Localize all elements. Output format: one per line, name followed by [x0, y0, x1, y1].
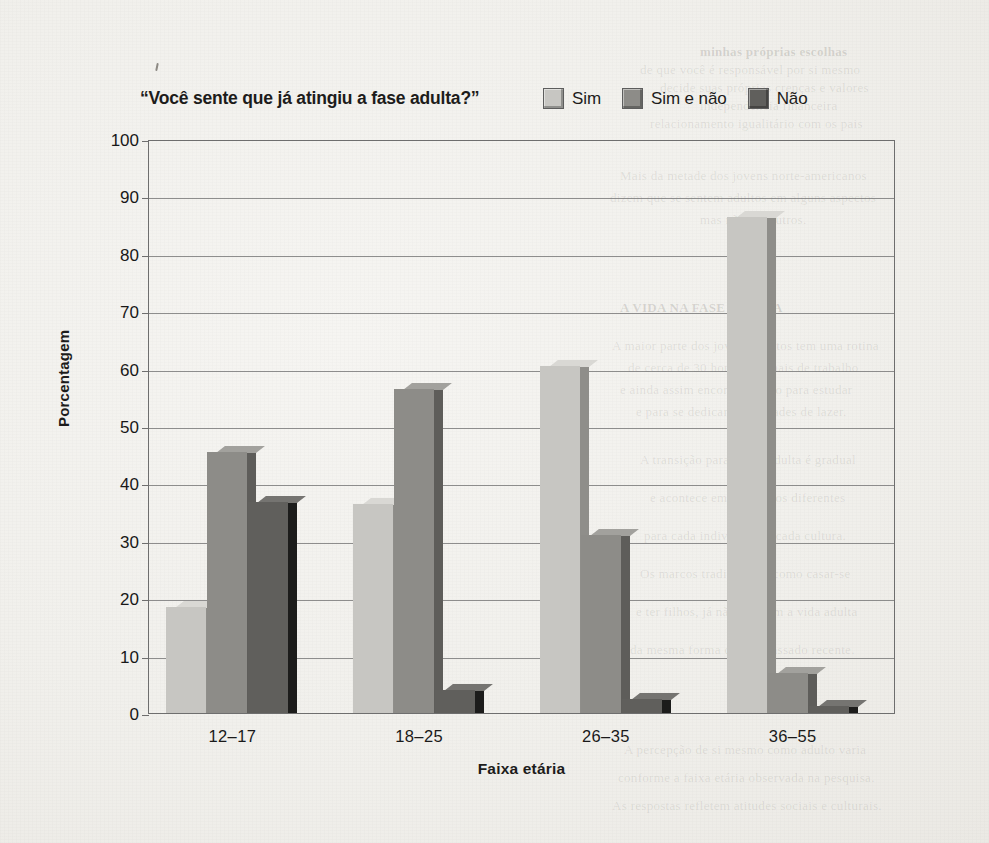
bar-front-face [435, 690, 475, 713]
bar-front-face [394, 389, 434, 713]
y-tick-mark [142, 141, 149, 142]
y-tick-mark [142, 371, 149, 372]
chart-legend: SimSim e nãoNão [543, 88, 822, 109]
bar[interactable] [394, 389, 434, 713]
plot-area: 0102030405060708090100 12–1718–2526–3536… [148, 140, 895, 714]
y-tick-mark [142, 256, 149, 257]
y-tick-mark [142, 658, 149, 659]
bar[interactable] [581, 535, 621, 713]
bar[interactable] [768, 673, 808, 713]
bar-front-face [166, 607, 206, 713]
legend-label: Não [777, 89, 808, 109]
legend-label: Sim [572, 89, 601, 109]
y-tick-label: 30 [120, 533, 139, 553]
bar-group: 18–25 [353, 141, 485, 713]
y-tick-mark [142, 198, 149, 199]
bar-front-face [248, 502, 288, 713]
bar[interactable] [809, 706, 849, 713]
chart-title: “Você sente que já atingiu a fase adulta… [140, 88, 479, 109]
legend-swatch-icon [622, 88, 643, 109]
bar-group: 36–55 [727, 141, 859, 713]
y-tick-label: 80 [120, 246, 139, 266]
bar-front-face [809, 706, 849, 713]
bar-front-face [581, 535, 621, 713]
bar-front-face [207, 452, 247, 713]
legend-swatch-icon [543, 88, 564, 109]
legend-swatch-icon [748, 88, 769, 109]
x-tick-label: 36–55 [769, 727, 817, 746]
y-tick-label: 10 [120, 648, 139, 668]
y-tick-label: 0 [130, 705, 139, 725]
bar-group: 12–17 [166, 141, 298, 713]
y-tick-label: 60 [120, 361, 139, 381]
y-tick-label: 50 [120, 418, 139, 438]
x-tick-label: 12–17 [208, 727, 256, 746]
bar[interactable] [248, 502, 288, 713]
legend-item-sim-e-não[interactable]: Sim e não [622, 88, 727, 109]
bar[interactable] [166, 607, 206, 713]
y-tick-label: 90 [120, 188, 139, 208]
legend-label: Sim e não [651, 89, 727, 109]
bar-side-face [288, 502, 297, 713]
y-tick-label: 40 [120, 475, 139, 495]
y-tick-mark [142, 543, 149, 544]
bar-side-face [662, 699, 671, 713]
bar[interactable] [622, 699, 662, 713]
legend-item-não[interactable]: Não [748, 88, 808, 109]
x-tick-label: 18–25 [395, 727, 443, 746]
bar-front-face [768, 673, 808, 713]
bar[interactable] [353, 504, 393, 714]
bar-side-face [767, 217, 776, 714]
bar-front-face [622, 699, 662, 713]
y-tick-mark [142, 428, 149, 429]
y-tick-label: 100 [111, 131, 139, 151]
y-tick-mark [142, 715, 149, 716]
bar-side-face [434, 389, 443, 713]
bar[interactable] [727, 217, 767, 714]
y-tick-mark [142, 313, 149, 314]
y-tick-label: 70 [120, 303, 139, 323]
bar-group: 26–35 [540, 141, 672, 713]
bar[interactable] [207, 452, 247, 713]
bar[interactable] [540, 366, 580, 713]
bar-front-face [353, 504, 393, 714]
bar-front-face [727, 217, 767, 714]
y-tick-mark [142, 485, 149, 486]
bar-chart: “Você sente que já atingiu a fase adulta… [0, 0, 989, 843]
y-tick-label: 20 [120, 590, 139, 610]
bar-side-face [475, 690, 484, 713]
y-axis-label: Porcentagem [55, 330, 72, 427]
x-axis-label: Faixa etária [148, 760, 895, 778]
bar-front-face [540, 366, 580, 713]
bar-side-face [621, 535, 630, 713]
bar[interactable] [435, 690, 475, 713]
legend-item-sim[interactable]: Sim [543, 88, 601, 109]
bar-side-face [849, 706, 858, 713]
x-tick-label: 26–35 [582, 727, 630, 746]
y-tick-mark [142, 600, 149, 601]
